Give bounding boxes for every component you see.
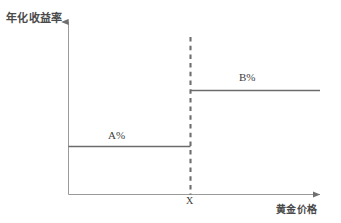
y-axis-title: 年化收益率 bbox=[6, 13, 63, 24]
chart-plot-area bbox=[0, 0, 341, 223]
x-axis-title: 黄金价格 bbox=[276, 205, 317, 215]
threshold-tick-label: X bbox=[186, 196, 193, 206]
series-a-label: A% bbox=[108, 130, 125, 141]
series-b-label: B% bbox=[239, 72, 256, 83]
step-yield-chart: 年化收益率 黄金价格 A% B% X bbox=[0, 0, 341, 223]
